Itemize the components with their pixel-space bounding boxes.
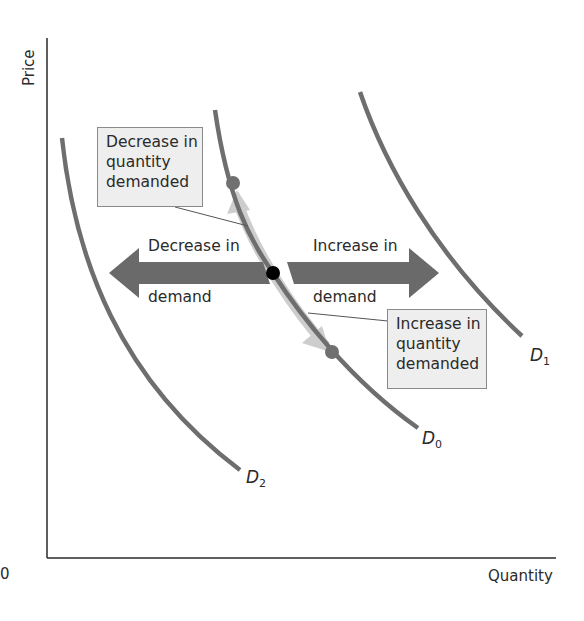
demand-diagram: Price Quantity 0 Decrease in quantity de… — [0, 0, 584, 621]
curve-label-subscript: 1 — [543, 355, 550, 368]
curve-label-d2: D2 — [246, 467, 266, 490]
point-lower-price — [325, 345, 339, 359]
increase-demand-label-bottom: demand — [313, 288, 377, 306]
demand-curve-d1 — [360, 92, 522, 336]
curve-label-subscript: 0 — [435, 438, 442, 451]
x-axis-label: Quantity — [488, 567, 553, 585]
callout-line: demanded — [396, 354, 480, 374]
y-axis-label: Price — [20, 49, 38, 86]
curve-label-d0: D0 — [422, 428, 442, 451]
increase-demand-label-top: Increase in — [313, 237, 398, 255]
curve-label-subscript: 2 — [259, 477, 266, 490]
curve-label-main: D — [246, 467, 259, 487]
callout-line: Increase in — [396, 314, 480, 334]
point-higher-price — [226, 176, 240, 190]
callout-increase-quantity-demanded: Increase in quantity demanded — [387, 309, 487, 389]
decrease-demand-label-top: Decrease in — [148, 237, 240, 255]
curve-label-main: D — [530, 345, 543, 365]
callout-line: Decrease in — [106, 132, 196, 152]
curve-label-main: D — [422, 428, 435, 448]
callout-line: quantity — [396, 334, 480, 354]
decrease-demand-label-bottom: demand — [148, 288, 212, 306]
point-initial-equilibrium — [266, 266, 280, 280]
callout-line: quantity — [106, 152, 196, 172]
curve-label-d1: D1 — [530, 345, 550, 368]
callout-line: demanded — [106, 172, 196, 192]
leader-line-increase-qd — [308, 313, 388, 321]
diagram-canvas — [0, 0, 584, 621]
callout-decrease-quantity-demanded: Decrease in quantity demanded — [97, 127, 203, 207]
origin-label: 0 — [0, 565, 10, 583]
